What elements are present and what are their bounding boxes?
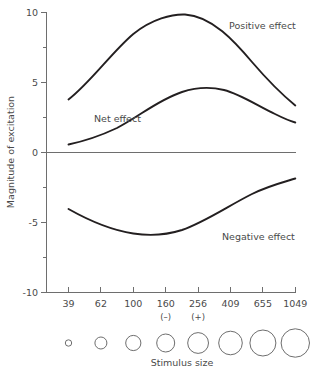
x-tick-label-4: 256	[189, 298, 207, 309]
y-tick-label-10: 10	[26, 7, 38, 18]
stimulus-circle-5	[219, 331, 243, 355]
y-axis-title: Magnitude of excitation	[5, 96, 16, 208]
x-tick-label-6: 655	[254, 298, 272, 309]
x-sublabel-positive-sign: (+)	[191, 312, 205, 322]
stimulus-circle-4	[188, 333, 209, 354]
x-tick-label-7: 1049	[283, 298, 307, 309]
y-tick-label-5: 5	[32, 77, 38, 88]
x-axis-title: Stimulus size	[151, 357, 214, 368]
chart-figure: 10 5 0 -5 -10 39 62 100 160 256 409 655 …	[0, 0, 310, 369]
net-effect-label: Net effect	[94, 113, 141, 124]
negative-effect-curve	[69, 179, 296, 235]
chart-canvas: 10 5 0 -5 -10 39 62 100 160 256 409 655 …	[0, 0, 310, 369]
x-tick-label-5: 409	[221, 298, 239, 309]
stimulus-circle-6	[250, 330, 276, 356]
x-tick-label-2: 100	[124, 298, 142, 309]
stimulus-circle-7	[281, 329, 309, 357]
stimulus-circle-0	[65, 340, 71, 346]
x-sublabel-negative-sign: (–)	[160, 312, 171, 322]
stimulus-circle-2	[126, 335, 141, 350]
negative-effect-label: Negative effect	[222, 231, 295, 242]
stimulus-circle-1	[95, 337, 107, 349]
y-tick-label-0: 0	[32, 147, 38, 158]
stimulus-circle-3	[157, 334, 175, 352]
positive-effect-label: Positive effect	[229, 20, 296, 31]
y-tick-label-minus5: -5	[29, 217, 38, 228]
x-tick-label-0: 39	[62, 298, 74, 309]
x-tick-label-3: 160	[157, 298, 175, 309]
x-tick-label-1: 62	[95, 298, 107, 309]
y-tick-label-minus10: -10	[22, 287, 38, 298]
